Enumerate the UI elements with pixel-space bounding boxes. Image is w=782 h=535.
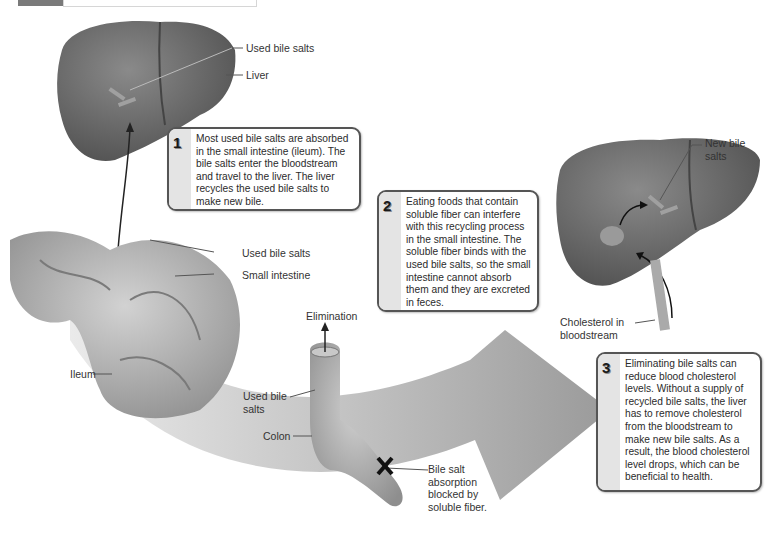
callout-step-2: 2 Eating foods that contain soluble fibe…: [377, 190, 539, 312]
label-used-bile-salts-colon: Used bile salts: [243, 390, 293, 415]
label-absorption-blocked: Bile salt absorption blocked by soluble …: [428, 463, 490, 513]
label-liver: Liver: [246, 69, 269, 82]
label-used-bile-salts-liver: Used bile salts: [246, 42, 314, 55]
label-ileum: Ileum: [70, 368, 96, 381]
callout-step-3: 3 Eliminating bile salts can reduce bloo…: [596, 352, 762, 492]
step-number-badge: 2: [383, 197, 391, 214]
callout-text: Eliminating bile salts can reduce blood …: [625, 358, 756, 484]
label-elimination: Elimination: [306, 310, 357, 323]
callout-text: Most used bile salts are absorbed in the…: [196, 133, 355, 209]
small-intestine-illustration: [10, 231, 240, 418]
step-number-badge: 3: [602, 359, 610, 376]
step-number-badge: 1: [173, 134, 181, 151]
label-small-intestine: Small intestine: [242, 269, 310, 282]
label-new-bile-salts: New bile salts: [705, 137, 747, 162]
liver-new-bile-illustration: [556, 138, 760, 330]
callout-step-1: 1 Most used bile salts are absorbed in t…: [167, 127, 361, 211]
label-colon: Colon: [263, 430, 290, 443]
label-used-bile-salts-intestine: Used bile salts: [242, 247, 310, 260]
label-cholesterol-bloodstream: Cholesterol in bloodstream: [560, 316, 638, 341]
callout-text: Eating foods that contain soluble fiber …: [406, 196, 533, 309]
